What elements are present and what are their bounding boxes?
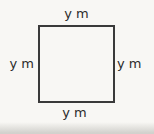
side-label-top: y m <box>38 6 115 22</box>
geometry-diagram: y m y m y m y m <box>0 0 154 134</box>
side-label-left: y m <box>0 56 34 72</box>
side-label-bottom: y m <box>36 105 113 121</box>
square-shape <box>38 25 115 103</box>
side-label-right: y m <box>117 56 142 72</box>
page-edge-shadow <box>0 122 154 134</box>
